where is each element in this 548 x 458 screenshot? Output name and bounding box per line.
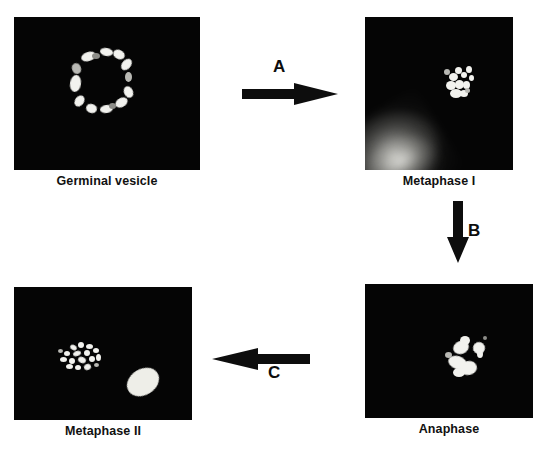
arrow-a [242, 83, 338, 105]
micrograph-panel-anaphase [365, 284, 533, 418]
micrograph-image-metaphase-i [365, 17, 513, 170]
micrograph-image-germinal-vesicle [14, 17, 200, 170]
micrograph-image-metaphase-ii [14, 287, 192, 420]
micrograph-panel-germinal-vesicle [14, 17, 200, 170]
micrograph-panel-metaphase-i [365, 17, 513, 170]
micrograph-panel-metaphase-ii [14, 287, 192, 420]
panel-label-germinal-vesicle: Germinal vesicle [14, 174, 200, 188]
arrow-c-label: C [268, 364, 280, 381]
arrow-a-label: A [273, 58, 285, 75]
panel-label-anaphase: Anaphase [365, 422, 533, 436]
panel-label-metaphase-i: Metaphase I [365, 174, 513, 188]
figure-container: Germinal vesicle A Metaphase I [0, 0, 548, 458]
panel-label-metaphase-ii: Metaphase II [14, 424, 192, 438]
arrow-b [447, 201, 469, 263]
arrow-c [212, 348, 310, 370]
arrow-b-label: B [468, 222, 480, 239]
micrograph-image-anaphase [365, 284, 533, 418]
